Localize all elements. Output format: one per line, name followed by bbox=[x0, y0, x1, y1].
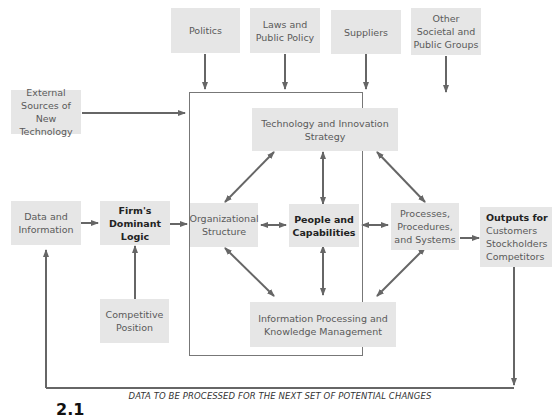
politics-label: Politics bbox=[189, 24, 222, 37]
processes-box: Processes, Procedures, and Systems bbox=[391, 203, 459, 250]
org-structure-label: Organizational Structure bbox=[189, 212, 258, 238]
laws-label: Laws and Public Policy bbox=[252, 18, 318, 44]
suppliers-box: Suppliers bbox=[331, 10, 401, 54]
people-box: People and Capabilities bbox=[289, 204, 359, 247]
output-competitors: Competitors bbox=[486, 250, 548, 263]
output-stockholders: Stockholders bbox=[486, 237, 548, 250]
suppliers-label: Suppliers bbox=[344, 26, 388, 39]
competitive-position-label: Competitive Position bbox=[102, 308, 167, 334]
outputs-box: Outputs for Customers Stockholders Compe… bbox=[480, 207, 552, 267]
figure-number: 2.1 bbox=[56, 402, 84, 418]
feedback-caption: DATA TO BE PROCESSED FOR THE NEXT SET OF… bbox=[0, 391, 560, 401]
data-info-label: Data and Information bbox=[13, 210, 79, 236]
info-processing-box: Information Processing and Knowledge Man… bbox=[250, 302, 396, 347]
other-groups-label: Other Societal and Public Groups bbox=[413, 12, 479, 51]
tech-strategy-box: Technology and Innovation Strategy bbox=[252, 108, 398, 151]
outputs-title: Outputs for bbox=[486, 211, 548, 224]
laws-box: Laws and Public Policy bbox=[250, 8, 320, 53]
competitive-position-box: Competitive Position bbox=[100, 299, 169, 343]
politics-box: Politics bbox=[171, 8, 240, 53]
external-tech-box: External Sources of New Technology bbox=[11, 90, 81, 134]
dominant-logic-label: Firm's Dominant Logic bbox=[102, 204, 168, 243]
tech-strategy-label: Technology and Innovation Strategy bbox=[254, 117, 396, 143]
dominant-logic-box: Firm's Dominant Logic bbox=[100, 201, 170, 245]
external-tech-label: External Sources of New Technology bbox=[13, 86, 79, 138]
org-structure-box: Organizational Structure bbox=[190, 203, 258, 247]
data-info-box: Data and Information bbox=[11, 201, 81, 245]
people-label: People and Capabilities bbox=[291, 213, 357, 239]
info-processing-label: Information Processing and Knowledge Man… bbox=[252, 312, 394, 338]
other-groups-box: Other Societal and Public Groups bbox=[411, 8, 481, 55]
processes-label: Processes, Procedures, and Systems bbox=[393, 207, 457, 246]
output-customers: Customers bbox=[486, 224, 548, 237]
